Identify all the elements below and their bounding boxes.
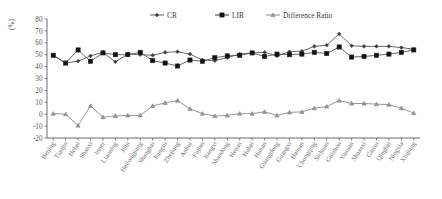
data-point-marker xyxy=(263,110,267,114)
province-cr-lir-difference-ratio-line-chart: 80706050403020100-10-20(%)BeijingTianjin… xyxy=(0,0,442,199)
data-point-marker xyxy=(238,53,242,57)
data-point-marker xyxy=(337,45,341,49)
data-point-marker xyxy=(213,56,217,60)
y-axis-tick-label: 40 xyxy=(35,63,43,71)
y-axis-tick-label: 20 xyxy=(35,87,43,95)
data-point-marker xyxy=(176,50,180,54)
data-point-marker xyxy=(76,59,80,63)
legend-label-cr: CR xyxy=(167,11,177,20)
data-point-marker xyxy=(188,52,192,56)
chart-legend: CRLIRDifference Ratio xyxy=(150,11,333,20)
data-point-marker xyxy=(220,13,224,17)
data-point-marker xyxy=(188,107,192,111)
data-point-marker xyxy=(101,51,105,55)
series-polyline xyxy=(53,101,414,126)
series-difference-ratio xyxy=(51,98,416,127)
data-point-marker xyxy=(89,54,93,58)
legend-label-difference-ratio: Difference Ratio xyxy=(283,11,333,20)
data-point-marker xyxy=(375,44,379,48)
y-axis-tick-label: 50 xyxy=(35,51,43,59)
y-axis-tick-label: -20 xyxy=(33,135,43,143)
data-point-marker xyxy=(312,50,316,54)
data-point-marker xyxy=(399,50,403,54)
data-point-marker xyxy=(155,13,159,17)
data-point-marker xyxy=(262,54,266,58)
legend-label-lir: LIR xyxy=(232,11,244,20)
data-point-marker xyxy=(387,44,391,48)
data-point-marker xyxy=(51,53,55,57)
data-point-marker xyxy=(275,52,279,56)
y-axis-tick-label: 60 xyxy=(35,39,43,47)
data-point-marker xyxy=(113,53,117,57)
data-point-marker xyxy=(76,48,80,52)
x-axis-category-label: Tianjin xyxy=(53,140,69,160)
data-point-marker xyxy=(362,44,366,48)
data-point-marker xyxy=(163,61,167,65)
data-point-marker xyxy=(287,53,291,57)
chart-container: 80706050403020100-10-20(%)BeijingTianjin… xyxy=(0,0,442,199)
y-axis-tick-label: 70 xyxy=(35,28,43,36)
series-cr xyxy=(51,32,415,65)
data-point-marker xyxy=(312,44,316,48)
data-point-marker xyxy=(88,104,92,108)
data-point-marker xyxy=(325,51,329,55)
data-point-marker xyxy=(350,55,354,59)
data-point-marker xyxy=(175,64,179,68)
data-point-marker xyxy=(163,50,167,54)
y-axis-tick-label: 80 xyxy=(35,16,43,24)
data-point-marker xyxy=(151,53,155,57)
data-point-marker xyxy=(176,98,180,102)
data-point-marker xyxy=(325,104,329,108)
series-polyline xyxy=(53,34,414,63)
y-axis-tick-label: -10 xyxy=(33,123,43,131)
data-point-marker xyxy=(126,53,130,57)
data-point-marker xyxy=(263,50,267,54)
data-point-marker xyxy=(64,61,68,65)
y-axis-tick-label: 30 xyxy=(35,75,43,83)
data-point-marker xyxy=(412,48,416,52)
data-point-marker xyxy=(387,52,391,56)
y-axis-title: (%) xyxy=(8,19,16,30)
data-point-marker xyxy=(88,59,92,63)
series-lir xyxy=(51,45,416,68)
data-point-marker xyxy=(399,46,403,50)
data-point-marker xyxy=(151,59,155,63)
data-point-marker xyxy=(250,51,254,55)
data-point-marker xyxy=(300,52,304,56)
data-point-marker xyxy=(200,59,204,63)
data-point-marker xyxy=(188,58,192,62)
data-point-marker xyxy=(138,50,142,54)
series-polyline xyxy=(53,47,414,66)
y-axis-tick-label: 10 xyxy=(35,99,43,107)
x-axis-category-label: Henan xyxy=(228,140,244,159)
data-point-marker xyxy=(374,53,378,57)
data-point-marker xyxy=(362,54,366,58)
y-axis-tick-label: 0 xyxy=(39,111,43,119)
x-axis-category-label: Shanxi xyxy=(78,140,94,159)
data-point-marker xyxy=(337,98,341,102)
data-point-marker xyxy=(225,54,229,58)
